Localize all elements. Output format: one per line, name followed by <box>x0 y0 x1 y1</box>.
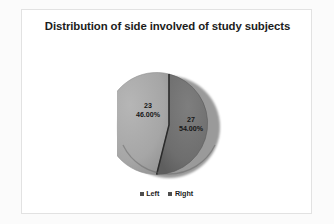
chart-legend: Left Right <box>22 189 311 198</box>
chart-screenshot: Distribution of side involved of study s… <box>0 0 334 224</box>
chart-title: Distribution of side involved of study s… <box>40 19 295 34</box>
chart-frame: Distribution of side involved of study s… <box>21 9 312 214</box>
pie-chart: 23 46.00% 27 54.00% <box>117 72 221 178</box>
pie-label-right: 27 54.00% <box>168 116 214 133</box>
pie-label-right-percent: 54.00% <box>168 125 214 134</box>
chart-title-line-1: Distribution of side involved of study <box>45 20 242 32</box>
legend-label-right: Right <box>175 189 193 198</box>
chart-title-line-2: subjects <box>245 20 290 32</box>
pie-label-left: 23 46.00% <box>125 102 171 119</box>
pie-label-left-value: 23 <box>125 102 171 111</box>
legend-item-left: Left <box>140 189 160 198</box>
legend-swatch-right-icon <box>168 192 172 196</box>
legend-swatch-left-icon <box>140 192 144 196</box>
pie-label-left-percent: 46.00% <box>125 111 171 120</box>
pie-label-right-value: 27 <box>168 116 214 125</box>
legend-item-right: Right <box>168 189 193 198</box>
legend-label-left: Left <box>146 189 159 198</box>
